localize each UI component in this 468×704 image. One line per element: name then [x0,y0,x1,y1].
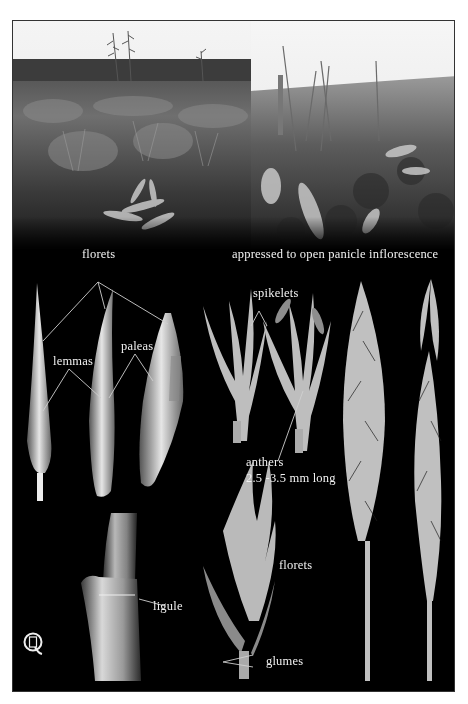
label-florets-bottom: florets [279,558,312,572]
floret-specimens [27,283,183,501]
spikelet-specimens [203,289,331,453]
label-anthers-size: 2.5 -3.5 mm long [246,471,336,485]
label-paleas: paleas [121,339,153,353]
spikelet-with-glumes [203,461,276,679]
label-glumes: glumes [266,654,303,668]
panicle-specimens [343,279,441,681]
label-spikelets: spikelets [253,286,299,300]
label-inflorescence: appressed to open panicle inflorescence [232,247,438,261]
label-lemmas: lemmas [53,354,93,368]
ligule-specimen [81,513,141,681]
botanical-plate: florets appressed to open panicle inflor… [12,20,455,692]
label-anthers: anthers [246,455,284,469]
label-ligule: ligule [153,599,183,613]
label-florets-top: florets [82,247,115,261]
qs-monogram-logo-icon [22,631,44,657]
